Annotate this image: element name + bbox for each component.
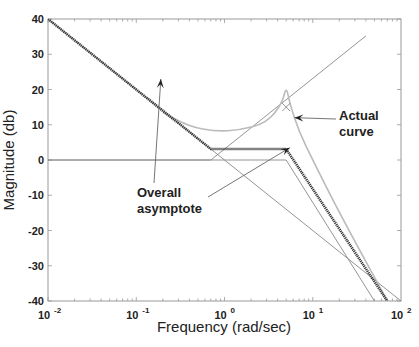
- annotation-actual-curve-line1: Actual: [339, 108, 379, 123]
- annotation-overall-asymptote-line1: Overall: [137, 185, 181, 200]
- series-layer: [48, 19, 401, 301]
- y-tick-label: -30: [28, 260, 44, 272]
- y-tick-label: 20: [32, 84, 44, 96]
- series-line: [48, 160, 374, 301]
- y-tick-label: 40: [32, 13, 44, 25]
- x-tick-label: 10: [303, 309, 315, 321]
- series-line: [48, 36, 366, 160]
- x-tick-exponent: 0: [231, 306, 236, 315]
- annotation-overall-asymptote-line2: asymptote: [137, 201, 202, 216]
- x-tick-exponent: -2: [54, 306, 62, 315]
- y-tick-label: -20: [28, 225, 44, 237]
- x-axis-title: Frequency (rad/sec): [157, 318, 291, 335]
- x-tick-label: 10: [126, 309, 138, 321]
- cross-marker: [282, 103, 290, 111]
- y-tick-label: 0: [38, 154, 44, 166]
- x-tick-exponent: 1: [319, 306, 324, 315]
- x-tick-exponent: -1: [142, 306, 150, 315]
- bode-magnitude-chart: 403020100-10-20-30-40 10-210-1100101102 …: [0, 0, 419, 347]
- y-tick-label: 30: [32, 48, 44, 60]
- y-tick-label: 10: [32, 119, 44, 131]
- annotation-arrows: [154, 79, 336, 197]
- x-tick-label: 10: [38, 309, 50, 321]
- x-tick-label: 10: [391, 309, 403, 321]
- y-tick-labels: 403020100-10-20-30-40: [28, 13, 44, 307]
- y-tick-label: -40: [28, 295, 44, 307]
- annotation-actual-curve-line2: curve: [339, 124, 374, 139]
- x-tick-exponent: 2: [407, 306, 412, 315]
- y-axis-title: Magnitude (db): [0, 110, 17, 211]
- y-tick-label: -10: [28, 189, 44, 201]
